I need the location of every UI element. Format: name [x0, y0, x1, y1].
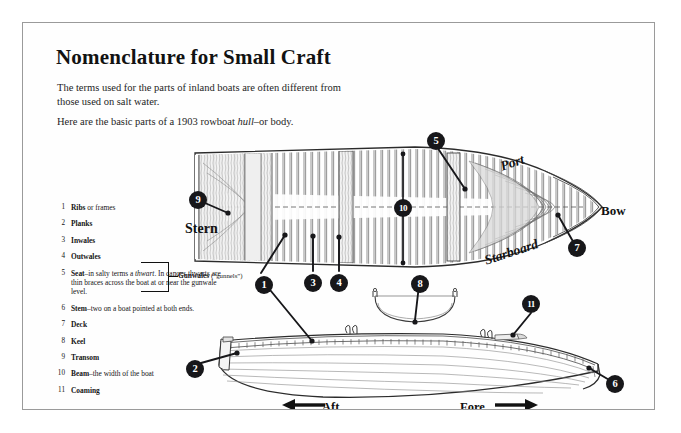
intro-paragraph-2: Here are the basic parts of a 1903 rowbo… [57, 115, 357, 129]
legend-text-9: Transom [71, 353, 233, 362]
aft-arrow-icon [281, 395, 327, 410]
legend-rest-1: or frames [85, 203, 115, 212]
legend-term-8: Keel [71, 337, 85, 346]
brace-stem-line [168, 276, 178, 277]
brace-top-line [141, 262, 169, 263]
label-port: Port [498, 152, 526, 175]
legend-text-11: Coaming [71, 386, 233, 395]
label-starboard: Starboard [483, 236, 541, 268]
legend-term-4: Outwales [71, 252, 101, 261]
brace-bottom-line [141, 291, 169, 292]
legend-rest-6: –two on a boat pointed at both ends. [87, 304, 194, 313]
gunwales-label: Gunwales (“gunnels”) [178, 271, 243, 280]
label-fore: Fore [460, 400, 485, 410]
page-title: Nomenclature for Small Craft [56, 45, 331, 70]
profile-view-rowboat [219, 325, 600, 397]
fore-arrow-icon [493, 395, 539, 410]
callout-9[interactable]: 9 [189, 191, 207, 209]
callout-11[interactable]: 11 [522, 295, 540, 313]
legend-item-2: 2 Planks [53, 219, 233, 228]
callout-4[interactable]: 4 [330, 274, 348, 292]
legend-number-5: 5 [53, 269, 65, 278]
legend-rest-5a: –in salty terms a [85, 269, 136, 278]
legend-term-9: Transom [71, 353, 99, 362]
legend-number-2: 2 [53, 219, 65, 228]
callout-6[interactable]: 6 [606, 375, 624, 393]
legend-item-11: 11 Coaming [53, 386, 233, 395]
legend-term-6: Stem [71, 304, 87, 313]
legend-text-10: Beam–the width of the boat [71, 369, 233, 378]
callout-2[interactable]: 2 [186, 360, 204, 378]
callout-7[interactable]: 7 [568, 239, 586, 257]
legend-text-3: Inwales [71, 236, 233, 245]
legend-item-1: 1 Ribs or frames [53, 203, 233, 212]
callout-1[interactable]: 1 [255, 276, 273, 294]
callout-8[interactable]: 8 [411, 275, 429, 293]
legend-term-11: Coaming [71, 386, 100, 395]
callout-5[interactable]: 5 [427, 132, 445, 150]
legend-item-3: 3 Inwales [53, 236, 233, 245]
legend-text-7: Deck [71, 320, 233, 329]
legend-text-6: Stem–two on a boat pointed at both ends. [71, 304, 233, 313]
callout-10[interactable]: 10 [394, 199, 412, 217]
legend-item-7: 7 Deck [53, 320, 233, 329]
legend-number-8: 8 [53, 337, 65, 346]
legend-number-11: 11 [53, 386, 65, 395]
legend-list: 1 Ribs or frames 2 Planks 3 Inwales 4 Ou… [53, 203, 233, 395]
gunwales-nickname: (“gunnels”) [209, 272, 242, 279]
page-frame: Nomenclature for Small Craft The terms u… [22, 22, 655, 410]
legend-number-1: 1 [53, 203, 65, 212]
legend-number-3: 3 [53, 236, 65, 245]
label-bow: Bow [601, 203, 626, 219]
legend-item-10: 10 Beam–the width of the boat [53, 369, 233, 378]
legend-item-9: 9 Transom [53, 353, 233, 362]
legend-term-7: Deck [71, 320, 87, 329]
legend-number-7: 7 [53, 320, 65, 329]
legend-term-3: Inwales [71, 236, 95, 245]
legend-text-8: Keel [71, 337, 233, 346]
legend-item-8: 8 Keel [53, 337, 233, 346]
legend-text-1: Ribs or frames [71, 203, 233, 212]
legend-text-2: Planks [71, 219, 233, 228]
intro-paragraph-1: The terms used for the parts of inland b… [57, 81, 357, 108]
legend-term-1: Ribs [71, 203, 85, 212]
legend-item-6: 6 Stem–two on a boat pointed at both end… [53, 304, 233, 313]
legend-number-4: 4 [53, 252, 65, 261]
legend-number-10: 10 [53, 369, 65, 378]
legend-rest-10: –the width of the boat [89, 369, 154, 378]
cross-section-view [373, 288, 457, 324]
intro-2-part-b: –or body. [254, 116, 294, 127]
legend-number-6: 6 [53, 304, 65, 313]
legend-term-2: Planks [71, 219, 92, 228]
intro-2-emphasis: hull [237, 116, 253, 127]
legend-term-10: Beam [71, 369, 89, 378]
intro-2-part-a: Here are the basic parts of a 1903 rowbo… [57, 116, 237, 127]
gunwales-term: Gunwales [178, 271, 209, 280]
legend-number-9: 9 [53, 353, 65, 362]
legend-term-5: Seat [71, 269, 85, 278]
callout-3[interactable]: 3 [304, 274, 322, 292]
